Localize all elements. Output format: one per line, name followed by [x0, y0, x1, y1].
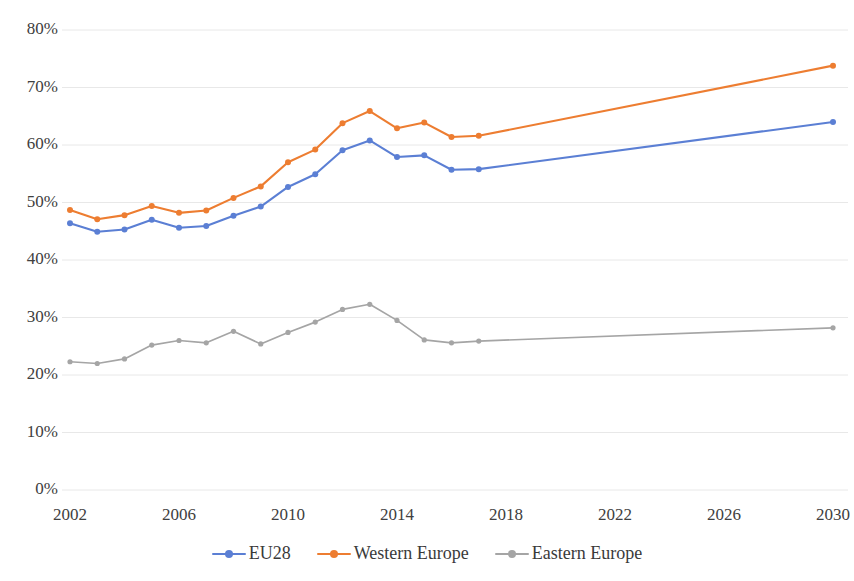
data-point [367, 108, 373, 114]
data-point [122, 227, 128, 233]
series-line [70, 304, 833, 363]
legend-line-marker-icon [495, 547, 529, 561]
legend-line-marker-icon [212, 547, 246, 561]
data-point [67, 220, 73, 226]
x-tick-label: 2018 [476, 505, 536, 525]
line-chart: 0%10%20%30%40%50%60%70%80% 2002200620102… [0, 0, 854, 581]
legend-item-eu28[interactable]: EU28 [212, 543, 291, 564]
data-point [830, 119, 836, 125]
data-point [176, 225, 182, 231]
data-point [476, 133, 482, 139]
data-series-layer [67, 63, 836, 366]
y-tick-label: 40% [8, 249, 58, 269]
chart-legend: EU28Western EuropeEastern Europe [0, 543, 854, 564]
data-point [340, 147, 346, 153]
data-point [830, 63, 836, 69]
data-point [94, 229, 100, 235]
legend-item-western-europe[interactable]: Western Europe [317, 543, 469, 564]
chart-plot-area [0, 0, 854, 581]
data-point [476, 166, 482, 172]
data-point [367, 302, 372, 307]
data-point [149, 203, 155, 209]
data-point [340, 307, 345, 312]
data-point [258, 341, 263, 346]
data-point [476, 338, 481, 343]
y-tick-label: 60% [8, 134, 58, 154]
data-point [67, 359, 72, 364]
data-point [285, 330, 290, 335]
x-tick-label: 2006 [149, 505, 209, 525]
data-point [394, 318, 399, 323]
y-tick-label: 80% [8, 19, 58, 39]
data-point [421, 152, 427, 158]
data-point [312, 147, 318, 153]
data-point [231, 329, 236, 334]
data-point [149, 343, 154, 348]
data-point [122, 212, 128, 218]
data-point [67, 207, 73, 213]
series-eastern-europe [67, 302, 835, 366]
data-point [176, 338, 181, 343]
data-point [203, 223, 209, 229]
x-tick-label: 2010 [258, 505, 318, 525]
y-tick-label: 0% [8, 479, 58, 499]
data-point [449, 134, 455, 140]
y-tick-label: 20% [8, 364, 58, 384]
data-point [122, 356, 127, 361]
data-point [149, 217, 155, 223]
x-tick-label: 2026 [694, 505, 754, 525]
legend-label: Eastern Europe [532, 543, 642, 564]
data-point [422, 337, 427, 342]
legend-line-marker-icon [317, 547, 351, 561]
series-western-europe [67, 63, 836, 223]
data-point [340, 120, 346, 126]
data-point [203, 208, 209, 214]
legend-item-eastern-europe[interactable]: Eastern Europe [495, 543, 642, 564]
legend-label: Western Europe [354, 543, 469, 564]
data-point [449, 340, 454, 345]
y-tick-label: 50% [8, 192, 58, 212]
data-point [394, 154, 400, 160]
data-point [204, 340, 209, 345]
data-point [285, 184, 291, 190]
series-line [70, 66, 833, 220]
data-point [258, 183, 264, 189]
x-tick-label: 2014 [367, 505, 427, 525]
x-tick-label: 2030 [803, 505, 854, 525]
data-point [176, 210, 182, 216]
gridlines [62, 30, 848, 490]
legend-label: EU28 [249, 543, 291, 564]
data-point [231, 195, 237, 201]
x-tick-label: 2002 [40, 505, 100, 525]
data-point [830, 325, 835, 330]
data-point [231, 213, 237, 219]
y-tick-label: 70% [8, 77, 58, 97]
data-point [449, 167, 455, 173]
data-point [94, 216, 100, 222]
data-point [313, 320, 318, 325]
data-point [394, 125, 400, 131]
y-tick-label: 30% [8, 307, 58, 327]
data-point [312, 171, 318, 177]
data-point [95, 361, 100, 366]
data-point [367, 137, 373, 143]
y-tick-label: 10% [8, 422, 58, 442]
x-tick-label: 2022 [585, 505, 645, 525]
data-point [285, 159, 291, 165]
data-point [421, 120, 427, 126]
data-point [258, 204, 264, 210]
